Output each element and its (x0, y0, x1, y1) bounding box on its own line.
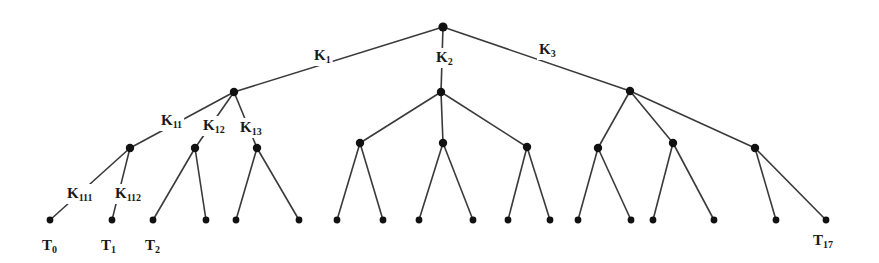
edge-n23-t11 (527, 147, 550, 220)
node-t5 (296, 217, 303, 224)
edge-n32-t15 (673, 143, 714, 220)
node-n2 (437, 88, 445, 96)
edge-n13-t5 (257, 148, 299, 220)
node-root (438, 22, 447, 31)
node-t14 (650, 217, 657, 224)
node-t17 (823, 217, 830, 224)
edge-root-n1 (234, 27, 443, 92)
leaf-label-t0: T0 (42, 237, 57, 255)
node-n3 (626, 87, 634, 95)
edge-n3-n33 (630, 91, 755, 148)
edge-n31-t12 (578, 148, 598, 220)
node-t0 (47, 217, 54, 224)
node-t6 (334, 217, 341, 224)
node-t2 (150, 217, 157, 224)
node-t7 (380, 217, 387, 224)
node-t15 (711, 217, 718, 224)
edge-n12-t3 (195, 148, 206, 220)
node-t16 (773, 217, 780, 224)
edge-n21-t6 (337, 143, 360, 220)
node-t11 (547, 217, 554, 224)
leaf-label-t17: T17 (813, 232, 833, 250)
node-t4 (233, 217, 240, 224)
node-n23 (523, 143, 531, 151)
node-n13 (253, 144, 261, 152)
leaf-label-t1: T1 (101, 237, 116, 255)
edge-n12-t2 (153, 148, 195, 220)
edge-n3-n31 (598, 91, 630, 148)
edge-n22-t8 (419, 143, 443, 220)
edge-n23-t10 (508, 147, 527, 220)
node-n22 (439, 139, 447, 147)
edge-n22-t9 (443, 143, 473, 220)
node-n11 (126, 144, 134, 152)
node-n31 (594, 144, 602, 152)
node-n1 (230, 88, 238, 96)
node-t12 (575, 217, 582, 224)
edge-n32-t14 (653, 143, 673, 220)
node-t9 (470, 217, 477, 224)
edge-n2-n21 (360, 92, 441, 143)
edge-n3-n32 (630, 91, 673, 143)
edge-n2-n23 (441, 92, 527, 147)
node-t13 (628, 217, 635, 224)
node-n33 (751, 144, 759, 152)
key-tree-diagram: K1K2K3K11K12K13K111K112T0T1T2T17 (0, 0, 879, 263)
node-n12 (191, 144, 199, 152)
node-t10 (505, 217, 512, 224)
edge-n2-n22 (441, 92, 443, 143)
edge-n13-t4 (236, 148, 257, 220)
node-t8 (416, 217, 423, 224)
edge-n21-t7 (360, 143, 383, 220)
node-t3 (203, 217, 210, 224)
edge-root-n3 (443, 27, 630, 91)
edge-n31-t13 (598, 148, 631, 220)
node-n21 (356, 139, 364, 147)
node-n32 (669, 139, 677, 147)
leaf-label-t2: T2 (145, 237, 160, 255)
label-backgrounds (65, 40, 558, 204)
node-t1 (109, 217, 116, 224)
